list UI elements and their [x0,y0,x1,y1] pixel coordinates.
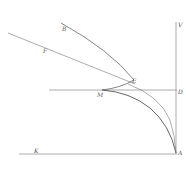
tangent-line-F [8,33,135,84]
label-V: V [178,22,182,28]
curve-BE [61,23,134,80]
label-A: A [178,150,182,156]
label-B: B [62,26,66,32]
label-E: E [132,78,136,84]
curve-EA [128,84,176,153]
curve-MA [102,90,176,153]
label-F: F [43,48,47,54]
label-D: D [178,89,183,95]
geometric-figure: B F E M V D K A [0,0,186,186]
figure-drawing [0,0,186,186]
label-M: M [97,92,103,98]
label-K: K [34,148,38,154]
